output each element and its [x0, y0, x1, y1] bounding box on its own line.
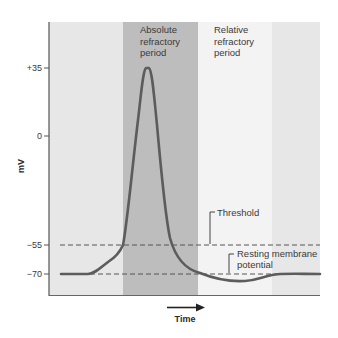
time-arrow-icon — [196, 304, 205, 312]
absolute-refractory-label-1: Absolute — [140, 24, 177, 35]
tick-label-55: −55 — [27, 240, 42, 250]
y-axis-title: mV — [16, 159, 26, 173]
relative-refractory-label-1: Relative — [214, 24, 248, 35]
threshold-label: Threshold — [217, 207, 259, 218]
resting-label-2: potential — [237, 259, 273, 270]
band-pre — [49, 22, 123, 295]
tick-label-35: +35 — [27, 63, 42, 73]
resting-label-1: Resting membrane — [237, 248, 317, 259]
tick-label-0: 0 — [37, 131, 42, 141]
x-axis-title: Time — [175, 314, 196, 324]
relative-refractory-label-3: period — [214, 47, 240, 58]
absolute-refractory-label-2: refractory — [140, 36, 180, 47]
absolute-refractory-label-3: period — [140, 47, 166, 58]
action-potential-diagram: +35 0 −55 −70 mV Absolute refractory per… — [0, 0, 338, 338]
relative-refractory-label-2: refractory — [214, 36, 254, 47]
tick-label-70: −70 — [27, 269, 42, 279]
